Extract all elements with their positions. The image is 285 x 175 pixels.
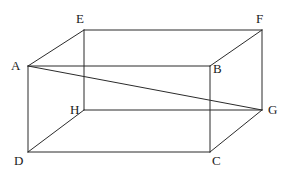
space-diagonal-a-g — [28, 66, 262, 110]
vertex-label-h: H — [70, 103, 79, 116]
vertex-label-a: A — [11, 59, 20, 72]
cuboid-edges-group — [28, 30, 262, 152]
vertex-label-c: C — [212, 154, 221, 167]
vertex-label-g: G — [268, 103, 277, 116]
edge-c-g — [210, 110, 262, 152]
vertex-label-b: B — [213, 62, 222, 75]
vertex-label-e: E — [76, 12, 84, 25]
cuboid-figure: ABCDEFGH — [0, 0, 285, 175]
vertex-label-d: D — [14, 154, 23, 167]
cuboid-svg — [0, 0, 285, 175]
cuboid-diagonals-group — [28, 66, 262, 110]
edge-a-e — [28, 30, 84, 66]
vertex-label-f: F — [256, 12, 263, 25]
